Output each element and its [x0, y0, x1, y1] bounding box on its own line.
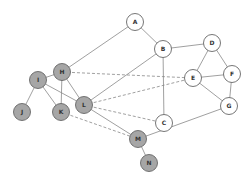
- node-j: J: [14, 104, 31, 121]
- node-label: E: [191, 74, 195, 81]
- node-label: F: [230, 70, 234, 77]
- edge-b-l: [84, 49, 163, 105]
- node-e: E: [185, 70, 202, 87]
- edge-l-m: [84, 105, 138, 139]
- node-label: A: [133, 18, 138, 25]
- node-f: F: [224, 66, 241, 83]
- node-label: D: [210, 39, 215, 46]
- edges-layer: [22, 22, 232, 163]
- node-g: G: [221, 98, 238, 115]
- node-label: N: [146, 159, 151, 166]
- node-label: M: [135, 135, 141, 142]
- node-label: B: [161, 45, 166, 52]
- edge-l-e: [84, 78, 193, 105]
- node-label: K: [59, 108, 64, 115]
- node-n: N: [141, 155, 158, 172]
- node-b: B: [155, 41, 172, 58]
- node-label: G: [227, 102, 232, 109]
- node-label: H: [59, 68, 64, 75]
- node-l: L: [76, 97, 93, 114]
- node-label: L: [82, 101, 86, 108]
- node-label: I: [37, 76, 39, 83]
- edge-l-c: [84, 105, 164, 123]
- node-a: A: [127, 14, 144, 31]
- node-m: M: [130, 131, 147, 148]
- node-d: D: [204, 35, 221, 52]
- node-k: K: [53, 104, 70, 121]
- node-label: J: [20, 108, 23, 116]
- edge-k-m: [61, 112, 138, 139]
- edge-h-e: [62, 72, 193, 78]
- node-h: H: [54, 64, 71, 81]
- edge-a-h: [62, 22, 135, 72]
- node-i: I: [30, 72, 47, 89]
- network-graph: ABCDEFGHIJKLMN: [0, 0, 252, 183]
- node-label: C: [162, 119, 167, 126]
- edge-b-c: [163, 49, 164, 123]
- edge-g-m: [138, 106, 229, 139]
- nodes-layer: ABCDEFGHIJKLMN: [14, 14, 241, 172]
- node-c: C: [156, 115, 173, 132]
